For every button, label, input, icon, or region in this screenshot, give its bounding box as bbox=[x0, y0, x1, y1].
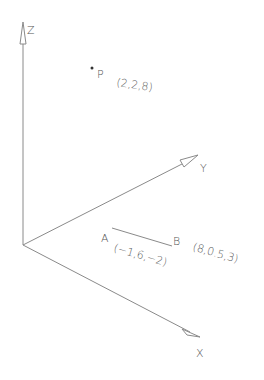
segment-ab: A (−1,6,−2) B (8,0.5,3) bbox=[101, 228, 240, 269]
z-arrow-icon bbox=[20, 22, 26, 44]
x-axis-label: X bbox=[196, 347, 204, 360]
z-axis: Z bbox=[20, 22, 35, 245]
point-p-coords: (2,2,8) bbox=[116, 76, 154, 94]
diagram-canvas: Z Y X P (2,2,8) A (−1,6,−2) B (8,0.5,3) bbox=[0, 0, 264, 380]
y-axis: Y bbox=[23, 155, 207, 245]
point-a-coords: (−1,6,−2) bbox=[112, 241, 168, 269]
point-p-label: P bbox=[97, 68, 104, 81]
point-b-coords: (8,0.5,3) bbox=[191, 240, 240, 265]
y-arrow-icon bbox=[180, 155, 198, 167]
point-p: P (2,2,8) bbox=[91, 67, 154, 95]
x-axis: X bbox=[23, 245, 204, 360]
x-arrow-icon bbox=[182, 329, 200, 337]
point-p-marker bbox=[91, 67, 94, 70]
z-axis-label: Z bbox=[27, 24, 35, 37]
point-a-label: A bbox=[101, 232, 109, 245]
point-b-label: B bbox=[173, 235, 180, 248]
y-axis-label: Y bbox=[200, 162, 207, 175]
